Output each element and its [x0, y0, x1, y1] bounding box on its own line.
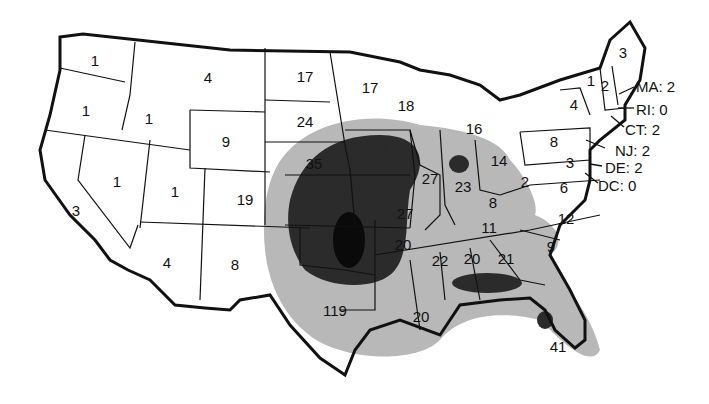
callout-de: DE: 2	[605, 160, 643, 175]
callout-ma: MA: 2	[636, 79, 675, 94]
callout-ct: CT: 2	[625, 122, 660, 137]
callout-nj: NJ: 2	[615, 143, 650, 158]
callout-dc: DC: 0	[598, 178, 636, 193]
us-map: 1 1 3 1 1 4 9 1 19 4 8 17 24 35 41 119 1…	[0, 0, 709, 404]
callout-ri: RI: 0	[636, 102, 668, 117]
callout-leaders	[0, 0, 709, 404]
